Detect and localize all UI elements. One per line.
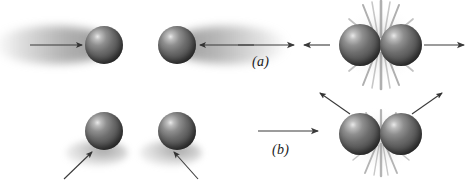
collision-diagram: (a) (b) xyxy=(0,0,469,181)
row-label-a: (a) xyxy=(252,54,269,70)
arrow-b-incoming-right xyxy=(174,152,198,179)
arrow-b-incoming-left xyxy=(64,152,92,179)
arrow-layer xyxy=(0,0,469,181)
arrow-b-outgoing-left xyxy=(320,93,350,114)
row-label-b: (b) xyxy=(272,142,289,158)
arrow-b-outgoing-right xyxy=(412,93,442,114)
